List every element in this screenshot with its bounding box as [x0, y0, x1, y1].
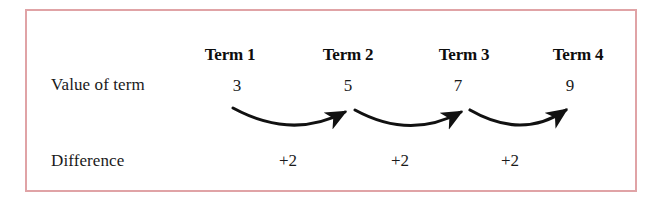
term-value-1: 3 [177, 77, 297, 94]
term-value-4: 9 [510, 77, 630, 94]
term-value-3: 7 [398, 77, 518, 94]
row-label-difference: Difference [51, 152, 124, 169]
term-header-1: Term 1 [170, 46, 290, 63]
difference-value-1: +2 [253, 152, 323, 169]
term-column-1: Term 1 3 [170, 46, 290, 94]
term-header-4: Term 4 [518, 46, 638, 63]
term-header-3: Term 3 [404, 46, 524, 63]
term-value-2: 5 [288, 77, 408, 94]
row-label-value-of-term: Value of term [51, 76, 145, 93]
term-column-2: Term 2 5 [288, 46, 408, 94]
term-column-3: Term 3 7 [404, 46, 524, 94]
term-column-4: Term 4 9 [518, 46, 638, 94]
term-header-2: Term 2 [288, 46, 408, 63]
difference-value-3: +2 [475, 152, 545, 169]
sequence-difference-diagram: Value of term Difference Term 1 3 Term 2… [0, 0, 659, 205]
difference-value-2: +2 [365, 152, 435, 169]
